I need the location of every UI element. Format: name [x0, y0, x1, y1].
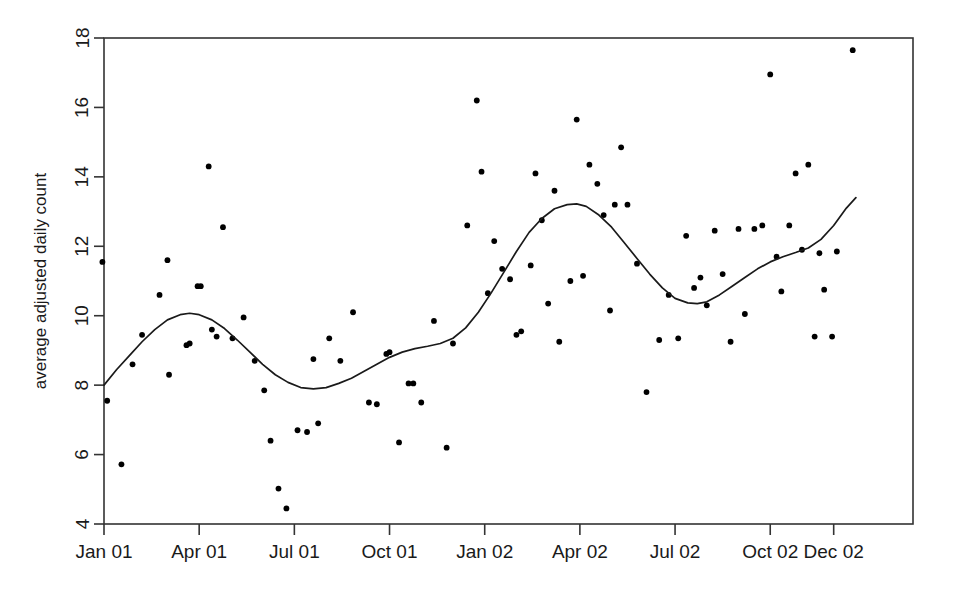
- data-point: [528, 262, 534, 268]
- data-point: [304, 429, 310, 435]
- data-point: [736, 226, 742, 232]
- y-axis-title: average adjusted daily count: [31, 173, 50, 390]
- data-point: [612, 202, 618, 208]
- data-point: [157, 292, 163, 298]
- scatter-plot: 4681012141618 Jan 01Apr 01Jul 01Oct 01Ja…: [0, 0, 956, 591]
- data-point: [326, 335, 332, 341]
- x-tick-label: Apr 01: [171, 541, 227, 562]
- data-point: [712, 228, 718, 234]
- x-tick-label: Jan 02: [456, 541, 513, 562]
- data-point: [552, 188, 558, 194]
- data-point: [366, 400, 372, 406]
- data-point: [139, 332, 145, 338]
- data-point: [533, 170, 539, 176]
- data-point: [759, 223, 765, 229]
- data-point: [261, 387, 267, 393]
- data-point: [350, 309, 356, 315]
- data-point: [214, 334, 220, 340]
- data-point: [479, 169, 485, 175]
- data-point: [778, 289, 784, 295]
- chart-page: 4681012141618 Jan 01Apr 01Jul 01Oct 01Ja…: [0, 0, 956, 591]
- data-point: [315, 420, 321, 426]
- data-point: [198, 283, 204, 289]
- data-point: [728, 339, 734, 345]
- data-point: [607, 308, 613, 314]
- data-point: [834, 249, 840, 255]
- data-point: [644, 389, 650, 395]
- data-point: [518, 328, 524, 334]
- data-point: [474, 98, 480, 104]
- x-tick-label: Oct 01: [362, 541, 418, 562]
- x-tick-label: Apr 02: [552, 541, 608, 562]
- data-point: [187, 341, 193, 347]
- data-point: [104, 398, 110, 404]
- data-point: [464, 223, 470, 229]
- y-tick-label: 4: [72, 518, 93, 529]
- data-point: [580, 273, 586, 279]
- data-point: [119, 461, 125, 467]
- data-point: [337, 358, 343, 364]
- data-point: [444, 445, 450, 451]
- x-tick-label: Jan 01: [75, 541, 132, 562]
- data-point: [387, 349, 393, 355]
- data-point: [396, 440, 402, 446]
- data-point: [276, 486, 282, 492]
- data-point: [284, 505, 290, 511]
- data-point: [507, 276, 513, 282]
- data-point: [691, 285, 697, 291]
- data-point: [618, 144, 624, 150]
- data-point: [220, 224, 226, 230]
- data-point: [206, 164, 212, 170]
- data-point: [545, 301, 551, 307]
- y-tick-label: 16: [72, 97, 93, 118]
- y-tick-label: 14: [72, 166, 93, 188]
- data-point: [751, 226, 757, 232]
- x-tick-label: Oct 02: [742, 541, 798, 562]
- data-point: [786, 223, 792, 229]
- y-tick-label: 12: [72, 236, 93, 257]
- data-point: [241, 315, 247, 321]
- data-point: [431, 318, 437, 324]
- data-point: [793, 170, 799, 176]
- y-tick-label: 8: [72, 380, 93, 391]
- data-point: [209, 327, 215, 333]
- data-point: [850, 47, 856, 53]
- data-point: [100, 259, 106, 265]
- data-point: [268, 438, 274, 444]
- data-point: [625, 202, 631, 208]
- data-point: [491, 238, 497, 244]
- data-point: [310, 356, 316, 362]
- data-point: [130, 361, 136, 367]
- data-point: [817, 250, 823, 256]
- data-point: [166, 372, 172, 378]
- data-point: [675, 335, 681, 341]
- data-point: [767, 72, 773, 78]
- data-point: [374, 401, 380, 407]
- y-tick-label: 18: [72, 27, 93, 48]
- data-point: [556, 339, 562, 345]
- data-point: [587, 162, 593, 168]
- y-tick-label: 10: [72, 305, 93, 326]
- data-point: [683, 233, 689, 239]
- y-tick-label: 6: [72, 449, 93, 460]
- data-point: [418, 400, 424, 406]
- x-tick-label: Jul 02: [650, 541, 701, 562]
- data-point: [165, 257, 171, 263]
- data-point: [594, 181, 600, 187]
- data-point: [567, 278, 573, 284]
- data-point: [656, 337, 662, 343]
- data-point: [742, 311, 748, 317]
- data-point: [698, 275, 704, 281]
- data-point: [514, 332, 520, 338]
- x-tick-label: Dec 02: [804, 541, 864, 562]
- x-axis-tick-labels: Jan 01Apr 01Jul 01Oct 01Jan 02Apr 02Jul …: [75, 541, 863, 562]
- data-point: [410, 381, 416, 387]
- data-point: [450, 341, 456, 347]
- data-point: [812, 334, 818, 340]
- x-tick-label: Jul 01: [269, 541, 320, 562]
- data-point: [704, 302, 710, 308]
- data-point: [295, 427, 301, 433]
- plot-background: [0, 0, 956, 591]
- data-point: [821, 287, 827, 293]
- data-point: [829, 334, 835, 340]
